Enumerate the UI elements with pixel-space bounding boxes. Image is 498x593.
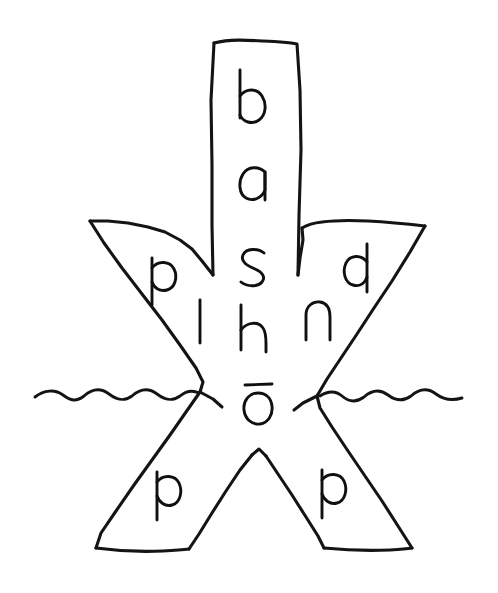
upper-right-arm-lower-edge: [317, 226, 425, 396]
water-line-left: [35, 390, 199, 400]
upper-right-arm-letters: [306, 244, 367, 340]
letter-p-lower-right: [322, 470, 346, 518]
trunk-left-edge: [211, 43, 214, 275]
letter-a: [240, 168, 265, 200]
glyph-outline-group: [90, 40, 425, 551]
leg-crotch-vertex: [252, 449, 266, 456]
lower-left-leg-letters: [157, 472, 181, 520]
lower-left-foot: [96, 548, 189, 551]
letter-s: [241, 249, 264, 285]
letter-d-upper-right: [344, 244, 367, 292]
upper-right-arm-top-edge: [302, 220, 425, 228]
lower-right-foot: [324, 548, 412, 550]
letter-o-macron: [244, 384, 272, 424]
letter-h: [241, 305, 266, 352]
lower-right-leg-inner-edge: [266, 456, 324, 548]
figure-canvas: bashō Hand-drawn asterisk / star-shaped …: [0, 0, 498, 593]
trunk-outline: [214, 40, 301, 275]
lower-right-leg-outer-edge: [317, 396, 412, 548]
center-column-letters: [240, 70, 272, 424]
letter-b: [240, 70, 265, 122]
letter-p-lower-left: [157, 472, 181, 520]
letter-p-upper-left: [152, 258, 176, 305]
letter-n-upper-right: [306, 302, 330, 340]
lower-left-leg-outer-edge: [96, 392, 200, 548]
water-line-right: [320, 390, 462, 401]
right-center-notch: [294, 396, 317, 410]
lower-left-leg-inner-edge: [189, 455, 252, 549]
hand-drawn-glyph-svg: [0, 0, 498, 593]
lower-right-leg-letters: [322, 470, 346, 518]
upper-left-arm-lower-edge: [90, 221, 203, 392]
left-center-notch: [200, 392, 222, 407]
upper-left-arm-letters: [152, 258, 200, 343]
